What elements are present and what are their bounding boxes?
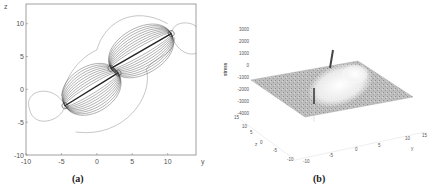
z-tick-label: -1000 bbox=[237, 75, 249, 80]
z-tick-label: -3000 bbox=[237, 99, 249, 104]
y-tick-label: -10 bbox=[303, 159, 310, 164]
depth-tick-label: 15 bbox=[234, 115, 240, 120]
x-tick-label: 10 bbox=[164, 158, 172, 165]
depth-tick-label: -5 bbox=[273, 148, 277, 153]
y-tick-label: 0 bbox=[20, 86, 24, 93]
depth-axis-line bbox=[241, 120, 295, 160]
y-axis-label: z bbox=[4, 3, 8, 10]
stress-hump bbox=[341, 64, 369, 84]
surface-plot-svg: 3000200010000-1000-2000-3000-4000stress1… bbox=[215, 0, 429, 189]
depth-tick-label: 0 bbox=[260, 140, 263, 145]
y-tick-label: -10 bbox=[14, 152, 24, 159]
y-tick-label: 15 bbox=[422, 133, 428, 138]
y-tick-label: -5 bbox=[18, 119, 24, 126]
depth-tick-label: 10 bbox=[242, 124, 248, 129]
x-tick-label: 5 bbox=[130, 158, 134, 165]
z-tick-label: 3000 bbox=[239, 27, 250, 32]
z-tick-label: 2000 bbox=[239, 39, 250, 44]
x-tick-label: 0 bbox=[95, 158, 99, 165]
y-tick-label: 10 bbox=[405, 136, 411, 141]
y-axis-label: y bbox=[411, 146, 414, 151]
y-tick-label: -5 bbox=[329, 153, 333, 158]
panel-a-contour-plot: -10-505101050-5-10yz (a) bbox=[0, 0, 215, 189]
y-tick-label: 0 bbox=[355, 147, 358, 152]
depth-axis-label: z bbox=[255, 142, 258, 147]
panel-b-surface-plot: 3000200010000-1000-2000-3000-4000stress1… bbox=[215, 0, 429, 189]
x-axis-label: y bbox=[201, 158, 205, 166]
caption-b: (b) bbox=[313, 173, 325, 184]
depth-tick-label: 5 bbox=[250, 130, 253, 135]
x-tick-label: -5 bbox=[58, 158, 64, 165]
y-tick-label: 10 bbox=[16, 20, 24, 27]
z-tick-label: -2000 bbox=[237, 87, 249, 92]
y-tick-label: 5 bbox=[20, 53, 24, 60]
z-axis-label: stress bbox=[223, 62, 228, 76]
z-tick-label: 1000 bbox=[239, 51, 250, 56]
x-tick-label: -10 bbox=[21, 158, 31, 165]
y-tick-label: 5 bbox=[378, 143, 381, 148]
z-tick-label: 0 bbox=[246, 63, 249, 68]
caption-a: (a) bbox=[72, 173, 84, 184]
z-tick-label: -4000 bbox=[237, 111, 249, 116]
depth-tick-label: -10 bbox=[287, 157, 294, 162]
contour-plot-svg: -10-505101050-5-10yz bbox=[0, 0, 215, 189]
